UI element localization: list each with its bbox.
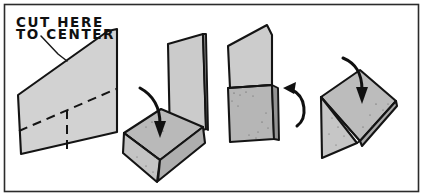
step-3-right-side-edge (272, 85, 279, 140)
origami-instruction-figure: CUT HERE TO CENTER (0, 0, 423, 196)
figure-canvas: CUT HERE TO CENTER (0, 0, 423, 196)
step-3-lower-box-face (228, 85, 274, 142)
cut-here-label-line-2: TO CENTER (16, 26, 115, 42)
